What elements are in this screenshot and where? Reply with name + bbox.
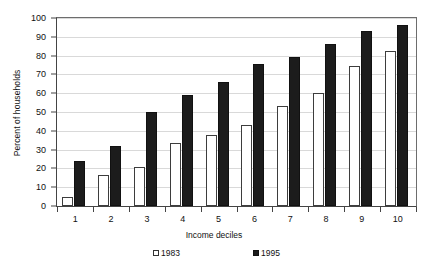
- y-tick-label-90: 90: [36, 32, 46, 42]
- x-tick-label-5: 5: [216, 214, 221, 224]
- bar-group-decile-10: [380, 18, 416, 206]
- x-tick-mark-10: [416, 207, 417, 212]
- bar-group-decile-4: [165, 18, 201, 206]
- x-tick-label-8: 8: [324, 214, 329, 224]
- y-tick-label-30: 30: [36, 145, 46, 155]
- x-tick-mark-8: [344, 207, 345, 212]
- x-tick-mark-1: [93, 207, 94, 212]
- x-tick-mark-6: [272, 207, 273, 212]
- y-tick-label-20: 20: [36, 163, 46, 173]
- y-tick-label-60: 60: [36, 88, 46, 98]
- y-tick-label-40: 40: [36, 126, 46, 136]
- legend-item-1995: 1995: [253, 248, 280, 258]
- bar-group-decile-5: [201, 18, 237, 206]
- bar-1983-decile-3: [134, 167, 145, 206]
- bar-1983-decile-1: [62, 197, 73, 206]
- bar-1983-decile-5: [206, 135, 217, 206]
- bar-1983-decile-7: [277, 106, 288, 207]
- bar-group-decile-7: [272, 18, 308, 206]
- bar-1995-decile-9: [361, 31, 372, 207]
- x-tick-mark-9: [380, 207, 381, 212]
- bar-group-decile-8: [308, 18, 344, 206]
- x-tick-label-7: 7: [288, 214, 293, 224]
- bar-1983-decile-9: [349, 66, 360, 206]
- bar-1983-decile-2: [98, 175, 109, 206]
- y-tick-label-50: 50: [36, 107, 46, 117]
- bar-1983-decile-8: [313, 93, 324, 207]
- legend-swatch-hollow-square-icon: [153, 250, 159, 256]
- chart-legend: 1983 1995: [0, 248, 428, 262]
- x-tick-mark-4: [201, 207, 202, 212]
- y-tick-label-80: 80: [36, 51, 46, 61]
- bar-1995-decile-8: [325, 44, 336, 207]
- y-tick-label-0: 0: [41, 201, 46, 211]
- bar-chart: Percent of households 010203040506070809…: [0, 0, 428, 273]
- x-tick-label-6: 6: [252, 214, 257, 224]
- bars-layer: [57, 18, 415, 206]
- bar-group-decile-6: [236, 18, 272, 206]
- y-tick-label-70: 70: [36, 69, 46, 79]
- x-tick-mark-7: [308, 207, 309, 212]
- bar-1995-decile-2: [110, 146, 121, 206]
- x-tick-mark-5: [237, 207, 238, 212]
- bar-group-decile-9: [344, 18, 380, 206]
- x-tick-mark-2: [129, 207, 130, 212]
- legend-item-1983: 1983: [153, 248, 180, 258]
- bar-1995-decile-1: [74, 161, 85, 206]
- x-axis-ticks: 12345678910: [56, 207, 417, 229]
- x-tick-label-3: 3: [144, 214, 149, 224]
- y-axis-ticks: 0102030405060708090100: [0, 17, 56, 207]
- legend-swatch-solid-square-icon: [253, 250, 259, 256]
- x-axis-title: Income deciles: [0, 230, 428, 240]
- bar-1983-decile-6: [241, 125, 252, 207]
- x-tick-mark-0: [57, 207, 58, 212]
- bar-1995-decile-3: [146, 112, 157, 206]
- x-tick-label-9: 9: [359, 214, 364, 224]
- x-tick-mark-3: [165, 207, 166, 212]
- bar-1995-decile-5: [218, 82, 229, 206]
- y-tick-label-100: 100: [31, 13, 46, 23]
- x-tick-label-1: 1: [73, 214, 78, 224]
- y-tick-label-10: 10: [36, 182, 46, 192]
- bar-1995-decile-10: [397, 25, 408, 206]
- x-tick-label-4: 4: [180, 214, 185, 224]
- bar-group-decile-1: [57, 18, 93, 206]
- bar-1983-decile-4: [170, 143, 181, 206]
- bar-1995-decile-7: [289, 57, 300, 206]
- bar-1995-decile-4: [182, 95, 193, 206]
- legend-label: 1995: [261, 248, 280, 258]
- x-tick-label-2: 2: [109, 214, 114, 224]
- x-tick-label-10: 10: [393, 214, 403, 224]
- bar-1983-decile-10: [385, 51, 396, 206]
- bar-group-decile-3: [129, 18, 165, 206]
- legend-label: 1983: [161, 248, 180, 258]
- bar-1995-decile-6: [253, 64, 264, 206]
- bar-group-decile-2: [93, 18, 129, 206]
